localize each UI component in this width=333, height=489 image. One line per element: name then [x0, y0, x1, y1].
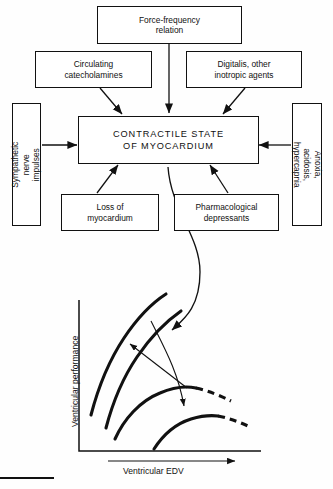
- bottom-rule: [0, 477, 54, 479]
- box-loss-of-myocardium[interactable]: Loss of myocardium: [61, 194, 159, 231]
- arrow-contractile-state-to-curves: [168, 167, 200, 330]
- y-axis-label: Ventricular performance: [70, 336, 80, 427]
- box-contractile-state[interactable]: CONTRACTILE STATE OF MYOCARDIUM: [78, 116, 259, 164]
- curve-most-depressed-contractile-state: [154, 416, 248, 449]
- box-circulating-catecholamines-label: Circulating catecholamines: [62, 59, 124, 80]
- arrow-depressants-to-center: [210, 165, 228, 193]
- box-sympathetic-nerve-impulses[interactable]: Sympathetic nerve impulses: [12, 103, 41, 226]
- box-force-frequency[interactable]: Force-frequency relation: [97, 6, 242, 44]
- box-contractile-state-label: CONTRACTILE STATE OF MYOCARDIUM: [111, 128, 226, 153]
- box-loss-of-myocardium-label: Loss of myocardium: [85, 202, 135, 223]
- figure-panel: Force-frequency relation Circulating cat…: [0, 0, 333, 489]
- box-pharmacological-depressants[interactable]: Pharmacological depressants: [174, 194, 279, 231]
- arrow-loss-of-myocardium-to-center: [97, 165, 118, 193]
- x-axis-label: Ventricular EDV: [123, 466, 184, 476]
- box-digitalis-inotropic-agents-label: Digitalis, other inotropic agents: [212, 59, 275, 80]
- curve-depressed-contractile-state: [115, 387, 231, 439]
- arrow-catecholamines-to-center: [100, 88, 122, 114]
- curve-enhanced-contractile-state: [106, 311, 181, 428]
- box-digitalis-inotropic-agents[interactable]: Digitalis, other inotropic agents: [186, 51, 302, 88]
- box-force-frequency-label: Force-frequency relation: [137, 15, 202, 36]
- box-pharmacological-depressants-label: Pharmacological depressants: [194, 202, 260, 223]
- box-anoxia-acidosis-hypercapnia[interactable]: Anoxia, acidosis, hypercapnia: [292, 103, 322, 226]
- box-circulating-catecholamines[interactable]: Circulating catecholamines: [35, 51, 152, 88]
- arrow-digitalis-to-center: [223, 88, 245, 114]
- box-sympathetic-nerve-impulses-label: Sympathetic nerve impulses: [11, 139, 43, 189]
- box-anoxia-acidosis-hypercapnia-label: Anoxia, acidosis, hypercapnia: [291, 140, 323, 190]
